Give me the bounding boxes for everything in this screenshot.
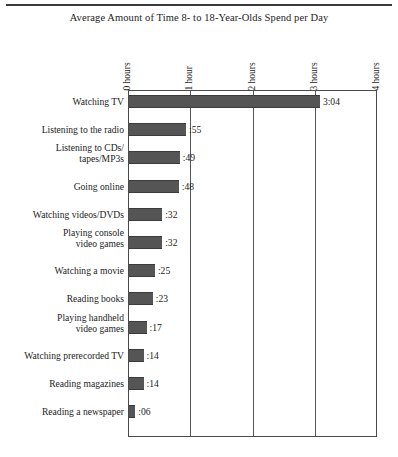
category-label: Playing handheld video games bbox=[0, 312, 124, 334]
bar-row: Reading a newspaper:06 bbox=[0, 405, 398, 419]
bar-value-label: :06 bbox=[138, 406, 150, 417]
bar bbox=[129, 180, 179, 193]
x-tick-label: 4 hours bbox=[372, 62, 382, 90]
bar-row: Watching videos/DVDs:32 bbox=[0, 208, 398, 222]
bar bbox=[129, 349, 144, 362]
category-label: Reading magazines bbox=[0, 378, 124, 389]
bar bbox=[129, 236, 162, 249]
bar-rows: Watching TV3:04Listening to the radio:55… bbox=[0, 90, 398, 437]
chart-title: Average Amount of Time 8- to 18-Year-Old… bbox=[0, 12, 398, 23]
bar-row: Watching prerecorded TV:14 bbox=[0, 349, 398, 363]
bar-value-label: :14 bbox=[147, 350, 159, 361]
bar-value-label: :25 bbox=[158, 265, 170, 276]
bar-row: Playing handheld video games:17 bbox=[0, 321, 398, 335]
bar bbox=[129, 151, 180, 164]
bar-value-label: :32 bbox=[165, 209, 177, 220]
header-rule bbox=[6, 4, 392, 6]
bar-value-label: :49 bbox=[183, 152, 195, 163]
category-label: Listening to the radio bbox=[0, 124, 124, 135]
bar-value-label: :48 bbox=[182, 181, 194, 192]
bar-row: Listening to CDs/ tapes/MP3s:49 bbox=[0, 151, 398, 165]
bar-value-label: :23 bbox=[156, 293, 168, 304]
bar bbox=[129, 208, 162, 221]
category-label: Reading books bbox=[0, 293, 124, 304]
bar-value-label: 3:04 bbox=[323, 96, 340, 107]
bar-row: Reading magazines:14 bbox=[0, 377, 398, 391]
bar bbox=[129, 95, 320, 108]
bar bbox=[129, 123, 186, 136]
x-axis-tick-labels: 0 hours1 hour2 hours3 hours4 hours bbox=[0, 40, 398, 90]
bar bbox=[129, 405, 135, 418]
bar-row: Playing console video games:32 bbox=[0, 236, 398, 250]
x-tick-label: 2 hours bbox=[247, 62, 257, 90]
bar bbox=[129, 292, 153, 305]
bar-value-label: :32 bbox=[165, 237, 177, 248]
bar-row: Watching a movie:25 bbox=[0, 264, 398, 278]
bar bbox=[129, 377, 144, 390]
category-label: Watching TV bbox=[0, 96, 124, 107]
category-label: Watching videos/DVDs bbox=[0, 209, 124, 220]
x-tick-label: 3 hours bbox=[309, 62, 319, 90]
bar-row: Reading books:23 bbox=[0, 292, 398, 306]
x-tick-label: 1 hour bbox=[185, 65, 195, 90]
category-label: Listening to CDs/ tapes/MP3s bbox=[0, 142, 124, 164]
bar-row: Watching TV3:04 bbox=[0, 95, 398, 109]
category-label: Watching prerecorded TV bbox=[0, 350, 124, 361]
category-label: Watching a movie bbox=[0, 265, 124, 276]
x-tick-label: 0 hours bbox=[123, 62, 133, 90]
bar-value-label: :55 bbox=[189, 124, 201, 135]
bar bbox=[129, 264, 155, 277]
bar-row: Going online:48 bbox=[0, 180, 398, 194]
bar-row: Listening to the radio:55 bbox=[0, 123, 398, 137]
bar-value-label: :14 bbox=[147, 378, 159, 389]
category-label: Going online bbox=[0, 181, 124, 192]
chart-figure: Average Amount of Time 8- to 18-Year-Old… bbox=[0, 0, 398, 457]
bar bbox=[129, 321, 147, 334]
category-label: Playing console video games bbox=[0, 227, 124, 249]
bar-value-label: :17 bbox=[150, 322, 162, 333]
category-label: Reading a newspaper bbox=[0, 406, 124, 417]
